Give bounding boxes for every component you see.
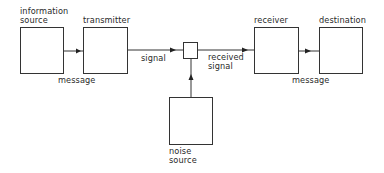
receiver-box [255,28,299,74]
arrowhead-icon [189,74,194,80]
edge-received-signal-label-line2: signal [208,61,233,71]
noise-source-box [170,98,213,145]
arrowhead-icon [170,48,176,53]
transmitter-box [84,28,128,74]
destination-node: destination [319,15,366,74]
noise-source-label-line2: source [169,155,197,165]
arrowhead-icon [76,49,81,54]
receiver-node: receiver [254,15,299,74]
edge-message-1-label: message [58,75,96,85]
information-source-box [21,28,64,74]
destination-box [320,28,363,74]
transmitter-node: transmitter [83,15,131,74]
edge-signal: signal [128,48,183,64]
information-source-node: information source [20,6,68,74]
arrowhead-icon [305,49,311,54]
transmitter-label: transmitter [83,15,131,25]
receiver-label: receiver [254,15,289,25]
information-source-label-line2: source [20,15,48,25]
noise-source-node: noise source [169,98,213,166]
edge-message-2-label: message [292,75,330,85]
destination-label: destination [319,15,366,25]
edge-signal-label: signal [141,53,166,63]
edge-noise [189,58,194,97]
mixer-box [184,43,198,59]
mixer-node [184,43,198,59]
edge-received-signal: received signal [197,48,254,72]
communication-system-diagram: information source transmitter receiver … [0,0,384,173]
